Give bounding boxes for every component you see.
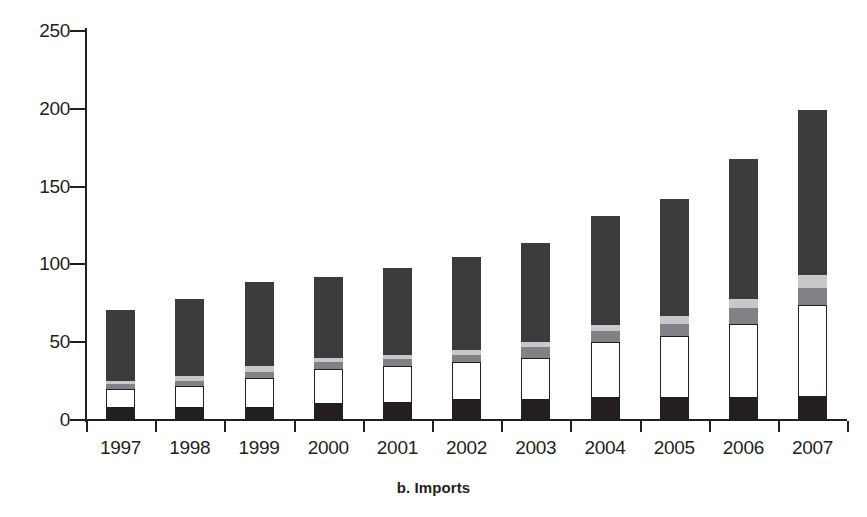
x-tick-1997 [86, 421, 88, 432]
bar-segment-2005-segment-2-white [660, 336, 689, 398]
bar-segment-2007-segment-3-medium-gray [798, 288, 827, 305]
stacked-bar-chart: 050100150200250 199719981999200020012002… [0, 0, 867, 517]
y-tick-label-250: 250 [14, 21, 70, 40]
bar-segment-2007-segment-2-white [798, 305, 827, 397]
bar-segment-2005-segment-4-light-gray [660, 316, 689, 324]
x-tick-label-2007: 2007 [777, 437, 849, 459]
x-tick-2003 [501, 421, 503, 432]
bar-1998 [175, 299, 204, 420]
bar-segment-2003-segment-3-medium-gray [521, 347, 550, 358]
bar-2003 [521, 243, 550, 420]
bar-segment-2004-segment-5-dark-top [591, 216, 620, 325]
bar-segment-2006-segment-3-medium-gray [729, 308, 758, 324]
x-tick-2005 [640, 421, 642, 432]
y-tick-label-200: 200 [14, 99, 70, 118]
bar-segment-2001-segment-1-dark-bottom [383, 403, 412, 420]
x-tick-label-2003: 2003 [500, 437, 572, 459]
bar-segment-2003-segment-1-dark-bottom [521, 400, 550, 420]
x-tick-1999 [224, 421, 226, 432]
bar-segment-2000-segment-2-white [314, 369, 343, 405]
x-tick-label-2000: 2000 [292, 437, 364, 459]
bar-2007 [798, 110, 827, 420]
x-tick-label-1999: 1999 [223, 437, 295, 459]
bar-2002 [452, 257, 481, 420]
y-tick-label-100: 100 [14, 254, 70, 273]
x-tick-label-2001: 2001 [361, 437, 433, 459]
y-tick-150 [70, 186, 85, 188]
bar-segment-2007-segment-4-light-gray [798, 275, 827, 287]
bar-segment-2002-segment-2-white [452, 362, 481, 399]
bar-segment-1998-segment-1-dark-bottom [175, 408, 204, 420]
bar-segment-1999-segment-5-dark-top [245, 282, 274, 366]
x-tick-end [847, 421, 849, 432]
x-tick-2001 [363, 421, 365, 432]
x-tick-label-2005: 2005 [638, 437, 710, 459]
y-tick-label-50: 50 [14, 332, 70, 351]
bar-segment-1997-segment-2-white [106, 389, 135, 408]
bar-2001 [383, 268, 412, 420]
chart-caption: b. Imports [0, 479, 867, 496]
bar-segment-2006-segment-2-white [729, 324, 758, 399]
bar-segment-1999-segment-1-dark-bottom [245, 408, 274, 420]
bar-segment-2001-segment-5-dark-top [383, 268, 412, 355]
bar-segment-1998-segment-2-white [175, 386, 204, 408]
bar-1997 [106, 310, 135, 420]
bar-segment-2007-segment-5-dark-top [798, 110, 827, 275]
x-tick-label-2004: 2004 [569, 437, 641, 459]
bar-segment-2000-segment-1-dark-bottom [314, 404, 343, 420]
y-tick-label-0: 0 [14, 410, 70, 429]
x-tick-label-1998: 1998 [154, 437, 226, 459]
bar-segment-1999-segment-2-white [245, 378, 274, 408]
y-tick-250 [70, 30, 85, 32]
y-tick-100 [70, 263, 85, 265]
bar-segment-2002-segment-3-medium-gray [452, 355, 481, 363]
bar-2006 [729, 159, 758, 420]
bar-segment-2003-segment-2-white [521, 358, 550, 400]
y-tick-0 [70, 419, 85, 421]
bar-segment-2002-segment-5-dark-top [452, 257, 481, 350]
bar-segment-2004-segment-3-medium-gray [591, 331, 620, 342]
y-tick-label-150: 150 [14, 177, 70, 196]
x-tick-label-2002: 2002 [431, 437, 503, 459]
bar-segment-2005-segment-3-medium-gray [660, 324, 689, 336]
bar-segment-2004-segment-1-dark-bottom [591, 398, 620, 420]
bar-1999 [245, 282, 274, 420]
bar-segment-2003-segment-5-dark-top [521, 243, 550, 343]
x-tick-2000 [294, 421, 296, 432]
bar-2004 [591, 216, 620, 420]
bar-segment-2005-segment-1-dark-bottom [660, 398, 689, 420]
bar-segment-2000-segment-5-dark-top [314, 277, 343, 358]
bar-segment-2002-segment-1-dark-bottom [452, 400, 481, 420]
x-tick-2004 [570, 421, 572, 432]
y-tick-50 [70, 341, 85, 343]
x-tick-2006 [709, 421, 711, 432]
x-tick-2007 [778, 421, 780, 432]
x-tick-label-2006: 2006 [707, 437, 779, 459]
plot-area [86, 31, 846, 420]
x-tick-1998 [155, 421, 157, 432]
bar-2005 [660, 199, 689, 420]
bar-segment-2006-segment-4-light-gray [729, 299, 758, 308]
bar-segment-2001-segment-2-white [383, 366, 412, 403]
bar-segment-1997-segment-5-dark-top [106, 310, 135, 382]
bar-segment-1997-segment-1-dark-bottom [106, 408, 135, 420]
y-tick-200 [70, 108, 85, 110]
bar-segment-2006-segment-1-dark-bottom [729, 398, 758, 420]
x-tick-label-1997: 1997 [85, 437, 157, 459]
bar-segment-2004-segment-2-white [591, 342, 620, 398]
x-tick-2002 [432, 421, 434, 432]
bar-segment-2005-segment-5-dark-top [660, 199, 689, 316]
bar-segment-2006-segment-5-dark-top [729, 159, 758, 299]
bar-segment-1998-segment-5-dark-top [175, 299, 204, 377]
bar-2000 [314, 277, 343, 420]
bar-segment-2007-segment-1-dark-bottom [798, 397, 827, 420]
